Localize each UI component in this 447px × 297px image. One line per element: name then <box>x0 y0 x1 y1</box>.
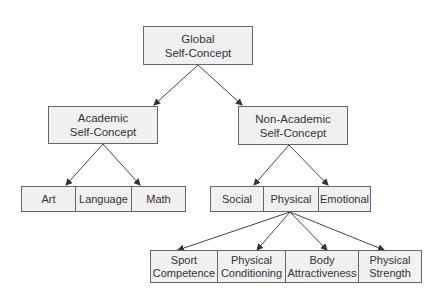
node-label: Non-Academic <box>255 113 330 125</box>
academic-children-row: Art Language Math <box>21 186 186 212</box>
node-label: Academic <box>78 112 129 124</box>
node-physical-strength: Physical Strength <box>359 251 421 282</box>
node-label: Self-Concept <box>165 47 231 59</box>
node-label: Physical <box>370 254 411 266</box>
node-label: Self-Concept <box>70 126 136 138</box>
node-physical: Physical <box>264 187 319 211</box>
node-label: Global <box>181 33 214 45</box>
node-art: Art <box>22 187 76 211</box>
node-sport-competence: Sport Competence <box>151 251 218 282</box>
node-emotional: Emotional <box>319 187 370 211</box>
node-social: Social <box>211 187 264 211</box>
node-math: Math <box>132 187 185 211</box>
node-physical-conditioning: Physical Conditioning <box>218 251 286 282</box>
non-academic-self-concept-node: Non-Academic Self-Concept <box>238 106 348 145</box>
node-label: Self-Concept <box>260 127 326 139</box>
node-body-attractiveness: Body Attractiveness <box>286 251 359 282</box>
node-language: Language <box>76 187 132 211</box>
node-label: Attractiveness <box>287 267 356 279</box>
node-label: Body <box>309 254 334 266</box>
global-self-concept-node: Global Self-Concept <box>143 26 253 65</box>
node-label: Strength <box>369 267 411 279</box>
academic-self-concept-node: Academic Self-Concept <box>48 106 158 144</box>
node-label: Competence <box>153 267 215 279</box>
node-label: Sport <box>171 254 197 266</box>
non-academic-children-row: Social Physical Emotional <box>210 186 371 212</box>
physical-children-row: Sport Competence Physical Conditioning B… <box>150 250 422 283</box>
node-label: Conditioning <box>221 267 282 279</box>
node-label: Physical <box>231 254 272 266</box>
